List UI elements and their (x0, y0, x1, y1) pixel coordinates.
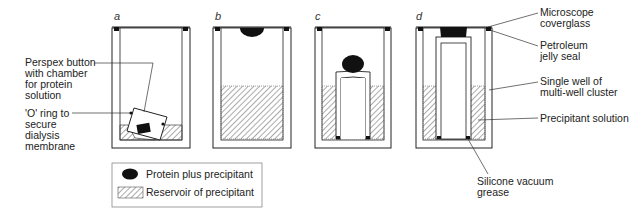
legend-reservoir-label: Reservoir of precipitant (146, 186, 254, 198)
legend-protein-label: Protein plus precipitant (146, 168, 253, 180)
svg-text:jelly seal: jelly seal (539, 50, 580, 62)
svg-text:multi-well cluster: multi-well cluster (540, 86, 618, 98)
well-a (112, 27, 190, 148)
crystallization-diagram: a b c d (0, 0, 643, 213)
sitting-drop-c (342, 55, 364, 73)
well-b (213, 27, 291, 148)
panel-label-b: b (215, 10, 221, 22)
label-microscope-coverglass: Microscope coverglass (540, 6, 594, 29)
svg-text:Precipitant solution: Precipitant solution (540, 112, 629, 124)
label-petroleum-jelly: Petroleum jelly seal (539, 39, 588, 62)
leader-coverglass (488, 13, 538, 27)
well-d (416, 27, 492, 148)
svg-text:coverglass: coverglass (540, 17, 590, 29)
label-precipitant-solution: Precipitant solution (540, 112, 629, 124)
leader-jelly-seal (490, 30, 538, 46)
drop-on-coverglass-d (440, 27, 467, 37)
label-perspex-button: Perspex button with chamber for protein … (24, 56, 96, 101)
label-o-ring: 'O' ring to secure dialysis membrane (25, 107, 75, 152)
label-silicone-grease: Silicone vacuum grease (477, 175, 554, 198)
panel-label-d: d (416, 10, 423, 22)
label-single-well: Single well of multi-well cluster (540, 75, 618, 98)
legend-protein-icon (122, 169, 138, 180)
svg-text:grease: grease (477, 186, 509, 198)
legend: Protein plus precipitant Reservoir of pr… (112, 163, 262, 207)
panel-label-c: c (315, 10, 321, 22)
leader-single-well (489, 82, 538, 90)
well-c (315, 27, 391, 148)
legend-reservoir-icon (118, 187, 143, 198)
panel-label-a: a (114, 10, 120, 22)
svg-text:solution: solution (25, 89, 61, 101)
svg-text:membrane: membrane (25, 140, 75, 152)
